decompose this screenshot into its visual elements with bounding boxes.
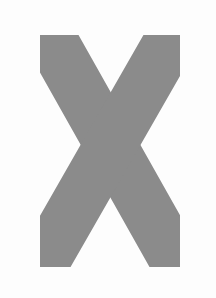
letter-x-glyph: Uppercase letter X formed by two crossin… — [0, 0, 216, 298]
glyph-canvas: Uppercase letter X formed by two crossin… — [0, 0, 216, 298]
